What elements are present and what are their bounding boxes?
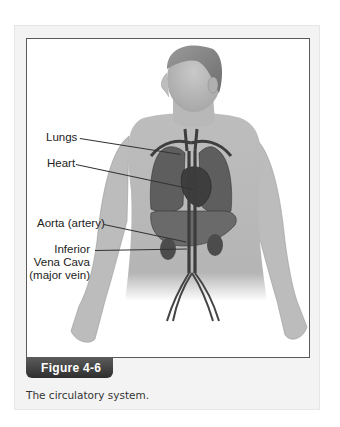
label-aorta: Aorta (artery) (37, 217, 105, 230)
label-ivc-line1: Inferior (30, 243, 90, 256)
label-ivc-line3: (major vein) (24, 269, 90, 282)
label-lungs: Lungs (46, 131, 77, 144)
figure-frame (26, 38, 310, 358)
label-ivc-line2: Vena Cava (30, 256, 90, 269)
figure-number-tab: Figure 4-6 (26, 358, 113, 378)
figure-caption: The circulatory system. (26, 389, 149, 401)
label-heart: Heart (47, 157, 75, 170)
circulatory-system-illustration (27, 39, 310, 358)
